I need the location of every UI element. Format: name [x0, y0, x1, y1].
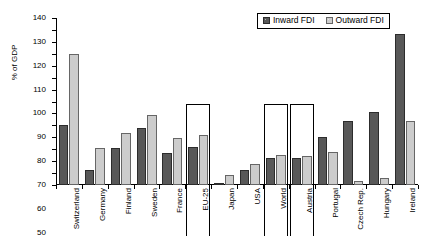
x-tick [108, 185, 109, 189]
y-tick-label: 110 [33, 86, 46, 94]
x-tick [263, 185, 264, 189]
x-tick [159, 185, 160, 189]
chart-legend: Inward FDIOutward FDI [257, 13, 390, 29]
y-tick-label: 90 [37, 133, 46, 141]
x-tick [340, 185, 341, 189]
bar-outward [147, 115, 157, 185]
bar-outward [380, 178, 390, 185]
y-tick: 40 [52, 137, 56, 138]
x-tick [418, 185, 419, 189]
bar-outward [225, 175, 235, 185]
bar-outward [328, 152, 338, 185]
bar-inward [137, 128, 147, 185]
x-tick [237, 185, 238, 189]
y-tick: 10 [52, 173, 56, 174]
x-label-france: France [176, 188, 184, 213]
bar-outward [406, 121, 416, 185]
x-tick [366, 185, 367, 189]
bar-outward [199, 135, 209, 185]
bar-inward [214, 183, 224, 185]
fdi-bar-chart: % of GDP 0102030405060708090100110120130… [0, 0, 433, 236]
legend-label: Inward FDI [273, 16, 315, 25]
bar-inward [85, 170, 95, 186]
legend-item-inward: Inward FDI [263, 16, 315, 25]
bar-group [266, 18, 286, 185]
y-tick: 100 [52, 66, 56, 67]
y-axis-line [56, 18, 57, 185]
bar-group [343, 18, 363, 185]
legend-label: Outward FDI [336, 16, 384, 25]
x-label-austria: Austria [306, 188, 314, 213]
bar-inward [59, 125, 69, 185]
bar-group [188, 18, 208, 185]
bar-group [214, 18, 234, 185]
bar-inward [395, 34, 405, 185]
bar-inward [266, 158, 276, 185]
x-tick [211, 185, 212, 189]
bar-group [318, 18, 338, 185]
x-label-ireland: Ireland [409, 188, 417, 212]
x-tick [56, 185, 57, 189]
bar-group [395, 18, 415, 185]
x-label-finland: Finland [125, 188, 133, 214]
bar-group [137, 18, 157, 185]
x-tick [315, 185, 316, 189]
y-tick: 70 [52, 102, 56, 103]
legend-swatch-inward-icon [263, 17, 270, 24]
bar-outward [276, 155, 286, 185]
x-tick [185, 185, 186, 189]
y-tick-label: 80 [37, 157, 46, 165]
x-label-eu-25: EU-25 [202, 188, 210, 211]
plot-area: 0102030405060708090100110120130140 [56, 18, 418, 185]
bar-inward [240, 170, 250, 186]
bar-group [111, 18, 131, 185]
bar-inward [318, 137, 328, 185]
bar-inward [369, 112, 379, 185]
y-tick: 20 [52, 161, 56, 162]
y-tick: 90 [52, 78, 56, 79]
bar-group [292, 18, 312, 185]
y-tick-label: 50 [37, 229, 46, 236]
y-tick-label: 120 [33, 62, 46, 70]
bar-group [162, 18, 182, 185]
x-tick [82, 185, 83, 189]
bar-outward [121, 133, 131, 185]
bar-inward [111, 148, 121, 185]
bar-outward [173, 138, 183, 185]
x-label-world: World [280, 188, 288, 209]
plot-frame: 0102030405060708090100110120130140 [56, 18, 418, 185]
y-tick: 60 [52, 113, 56, 114]
bar-outward [69, 54, 79, 185]
x-tick [392, 185, 393, 189]
y-tick-label: 60 [37, 205, 46, 213]
y-tick: 140 [52, 18, 56, 19]
bar-inward [343, 121, 353, 185]
bar-group [85, 18, 105, 185]
x-label-czech-rep: Czech Rep. [357, 188, 365, 230]
y-tick-label: 130 [33, 38, 46, 46]
y-tick-label: 100 [33, 109, 46, 117]
x-label-japan: Japan [228, 188, 236, 210]
y-tick: 30 [52, 149, 56, 150]
y-tick: 80 [52, 90, 56, 91]
y-axis-title: % of GDP [10, 18, 19, 108]
legend-item-outward: Outward FDI [326, 16, 384, 25]
bar-outward [250, 164, 260, 185]
y-tick: 50 [52, 125, 56, 126]
bar-outward [302, 156, 312, 185]
legend-swatch-outward-icon [326, 17, 333, 24]
x-label-usa: USA [254, 188, 262, 204]
y-tick: 120 [52, 42, 56, 43]
bar-outward [354, 181, 364, 185]
x-label-germany: Germany [99, 188, 107, 221]
bar-group [59, 18, 79, 185]
x-label-sweden: Sweden [151, 188, 159, 217]
y-tick: 110 [52, 54, 56, 55]
bar-group [369, 18, 389, 185]
x-label-portugal: Portugal [332, 188, 340, 218]
x-label-hungary: Hungary [383, 188, 391, 218]
y-tick-label: 70 [37, 181, 46, 189]
bar-group [240, 18, 260, 185]
bar-outward [95, 148, 105, 185]
y-tick-label: 140 [33, 14, 46, 22]
